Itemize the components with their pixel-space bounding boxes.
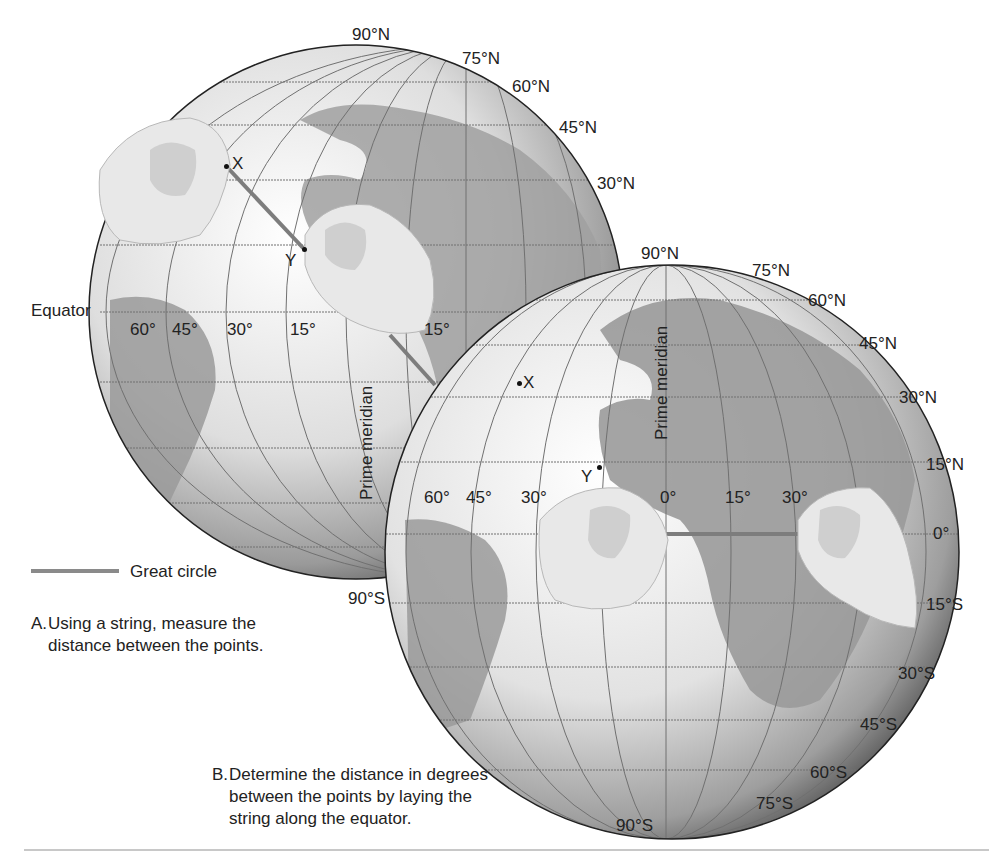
- globe-b-lon-45: 45°: [466, 489, 492, 506]
- caption-b-letter: B.: [212, 764, 228, 786]
- point-x-b-marker: [517, 381, 522, 386]
- globe-b-lat-90s: 90°S: [616, 817, 653, 834]
- globe-b-lat-75s: 75°S: [756, 795, 793, 812]
- globe-b-lat-30s: 30°S: [898, 665, 935, 682]
- globe-b-lat-0: 0°: [933, 525, 949, 542]
- globe-a-lon-15w: 15°: [290, 321, 316, 338]
- point-y-a-label: Y: [285, 252, 296, 269]
- globe-b-lon-0: 0°: [660, 489, 676, 506]
- globe-b-lon-30e: 30°: [782, 489, 808, 506]
- globe-a-lon-45: 45°: [172, 321, 198, 338]
- globe-a-lat-90s: 90°S: [348, 590, 385, 607]
- globe-a-lon-30: 30°: [227, 321, 253, 338]
- globe-b-lat-15s: 15°S: [926, 596, 963, 613]
- point-x-a-marker: [224, 164, 229, 169]
- globe-b-lat-45n: 45°N: [859, 335, 897, 352]
- globe-a-lat-75n: 75°N: [462, 50, 500, 67]
- globe-a-prime-meridian-label: Prime meridian: [357, 386, 377, 500]
- globe-a-lon-60: 60°: [130, 321, 156, 338]
- caption-b-text: Determine the distance in degrees betwee…: [212, 764, 509, 830]
- globe-b-lon-30w: 30°: [521, 489, 547, 506]
- globe-b-lat-90n: 90°N: [641, 245, 679, 262]
- point-x-b-label: X: [523, 374, 534, 391]
- globe-b-lat-30n: 30°N: [899, 389, 937, 406]
- caption-a: A. Using a string, measure the distance …: [31, 613, 331, 657]
- point-y-b-label: Y: [581, 468, 592, 485]
- globe-b-lon-15e: 15°: [725, 489, 751, 506]
- point-y-a-marker: [302, 247, 307, 252]
- bottom-divider: [24, 849, 989, 851]
- caption-b: B. Determine the distance in degrees bet…: [212, 764, 512, 830]
- caption-a-letter: A.: [31, 613, 47, 635]
- globe-b-prime-meridian-label: Prime meridian: [652, 326, 672, 440]
- globe-a-lat-90n: 90°N: [352, 26, 390, 43]
- globe-illustration: [0, 0, 993, 860]
- great-circle-legend-swatch: [31, 569, 119, 573]
- globe-b-lat-15n: 15°N: [926, 456, 964, 473]
- great-circle-legend-label: Great circle: [130, 563, 217, 580]
- globe-a-lat-60n: 60°N: [512, 78, 550, 95]
- globe-a-lat-30n: 30°N: [597, 175, 635, 192]
- globe-a-lat-45n: 45°N: [559, 119, 597, 136]
- point-y-b-marker: [597, 465, 602, 470]
- globe-b-lat-45s: 45°S: [860, 716, 897, 733]
- globe-b-lon-60: 60°: [424, 489, 450, 506]
- globe-b-lat-60s: 60°S: [810, 764, 847, 781]
- point-x-a-label: X: [232, 155, 243, 172]
- globe-a-lon-15e: 15°: [424, 321, 450, 338]
- globe-b-lat-60n: 60°N: [808, 292, 846, 309]
- globe-b-lat-75n: 75°N: [752, 262, 790, 279]
- caption-a-text: Using a string, measure the distance bet…: [31, 613, 323, 657]
- equator-label: Equator: [31, 302, 91, 319]
